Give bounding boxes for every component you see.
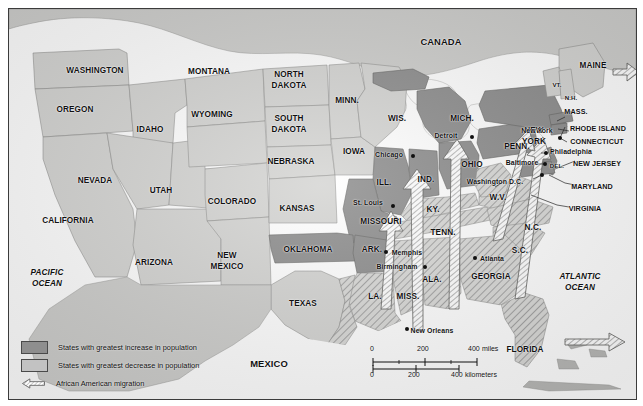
scale-miles-tick-400: 400 <box>468 345 480 352</box>
state-label-michigan: MICH. <box>450 115 474 123</box>
state-label-rhode-island: RHODE ISLAND <box>570 125 626 132</box>
state-label-new-york-line2: YORK <box>522 138 546 146</box>
scale-km-tick-0: 0 <box>370 371 374 378</box>
ocean-label-pacific-line2: OCEAN <box>32 280 62 288</box>
ocean-label-pacific-line1: PACIFIC <box>31 269 64 277</box>
state-label-kentucky: KY. <box>426 206 439 214</box>
legend-item-increase: States with greatest increase in populat… <box>21 339 199 355</box>
state-label-new-jersey: NEW JERSEY <box>573 160 621 167</box>
state-label-vermont: VT. <box>552 82 561 88</box>
ocean-label-atlantic-line1: ATLANTIC <box>559 273 600 281</box>
state-label-tennessee: TENN. <box>430 229 455 237</box>
state-label-north-carolina: N.C. <box>525 224 542 232</box>
city-label-baltimore: Baltimore <box>506 159 539 166</box>
state-label-south-dakota-line2: DAKOTA <box>271 126 306 134</box>
state-label-georgia: GEORGIA <box>471 273 510 281</box>
state-label-missouri: MISSOURI <box>360 218 401 226</box>
state-label-kansas: KANSAS <box>279 205 314 213</box>
scale-miles-tick-200: 200 <box>417 345 429 352</box>
legend-item-migration: African American migration <box>21 375 199 391</box>
state-label-maryland: MARYLAND <box>571 183 613 190</box>
state-label-indiana: IND. <box>418 176 435 184</box>
city-dot-washington-dc <box>540 173 544 177</box>
state-label-west-virginia: W.V. <box>490 194 507 202</box>
state-label-connecticut: CONNECTICUT <box>570 138 623 145</box>
city-dot-new-york <box>558 136 562 140</box>
legend-label-migration: African American migration <box>56 379 144 388</box>
state-label-mississippi: MISS. <box>397 293 420 301</box>
state-label-virginia: VIRGINIA <box>569 205 602 212</box>
state-label-wyoming: WYOMING <box>191 111 233 119</box>
city-label-washington-dc: Washington D.C. <box>467 178 523 185</box>
state-label-new-mexico-line1: NEW <box>217 252 236 260</box>
ocean-label-atlantic-line2: OCEAN <box>565 284 595 292</box>
country-label-mexico: MEXICO <box>250 359 288 369</box>
state-label-south-dakota-line1: SOUTH <box>274 115 303 123</box>
decrease-swatch <box>21 359 48 372</box>
state-label-alabama: ALA. <box>422 276 442 284</box>
city-dot-philadelphia <box>544 151 548 155</box>
state-label-arkansas: ARK. <box>362 246 382 254</box>
scale-miles-unit: miles <box>482 345 498 352</box>
map-legend: States with greatest increase in populat… <box>21 339 199 393</box>
legend-label-increase: States with greatest increase in populat… <box>58 343 197 352</box>
legend-label-decrease: States with greatest decrease in populat… <box>58 361 199 370</box>
city-label-birmingham: Birmingham <box>376 263 417 270</box>
state-label-arizona: ARIZONA <box>135 259 173 267</box>
legend-item-decrease: States with greatest decrease in populat… <box>21 357 199 373</box>
state-label-utah: UTAH <box>150 187 173 195</box>
state-label-iowa: IOWA <box>343 148 365 156</box>
city-dot-chicago <box>411 154 415 158</box>
state-label-massachusetts: MASS. <box>564 108 587 115</box>
city-label-new-orleans: New Orleans <box>411 327 454 334</box>
state-label-oregon: OREGON <box>57 106 94 114</box>
state-label-florida: FLORIDA <box>506 346 543 354</box>
city-label-philadelphia: Philadelphia <box>550 148 592 155</box>
state-label-washington: WASHINGTON <box>66 67 123 75</box>
scale-bar: 0 200 400 miles 0 200 400 kilometers <box>369 349 509 383</box>
state-label-north-dakota-line2: DAKOTA <box>271 82 306 90</box>
state-label-nevada: NEVADA <box>78 177 113 185</box>
city-dot-baltimore <box>543 162 547 166</box>
city-label-atlanta: Atlanta <box>480 255 504 262</box>
migration-arrow-icon <box>21 378 46 389</box>
map-frame: CANADA MEXICO PACIFIC OCEAN ATLANTIC OCE… <box>8 8 637 400</box>
state-label-nebraska: NEBRASKA <box>267 158 314 166</box>
city-dot-birmingham <box>423 265 427 269</box>
city-label-detroit: Detroit <box>435 132 458 139</box>
state-label-oklahoma: OKLAHOMA <box>283 246 332 254</box>
state-label-idaho: IDAHO <box>137 126 164 134</box>
city-dot-detroit <box>470 135 474 139</box>
city-label-memphis: Memphis <box>392 249 423 256</box>
city-label-new-york: New York <box>521 127 553 134</box>
map-screenshot: CANADA MEXICO PACIFIC OCEAN ATLANTIC OCE… <box>0 0 643 406</box>
city-dot-st-louis <box>391 204 395 208</box>
state-label-montana: MONTANA <box>188 68 230 76</box>
state-label-illinois: ILL. <box>377 179 392 187</box>
state-label-minnesota: MINN. <box>335 97 359 105</box>
city-label-st-louis: St. Louis <box>353 199 383 206</box>
state-label-new-mexico-line2: MEXICO <box>211 263 244 271</box>
scale-miles-tick-0: 0 <box>370 345 374 352</box>
state-label-california: CALIFORNIA <box>42 217 93 225</box>
state-label-new-hampshire: N.H. <box>565 95 578 101</box>
city-dot-new-orleans <box>405 327 409 331</box>
increase-swatch <box>21 341 48 354</box>
scale-km-tick-200: 200 <box>408 371 420 378</box>
city-dot-atlanta <box>473 256 477 260</box>
state-label-texas: TEXAS <box>289 300 317 308</box>
scale-km-tick-400: 400 <box>451 371 463 378</box>
state-label-south-carolina: S.C. <box>512 247 528 255</box>
scale-km-unit: kilometers <box>465 371 497 378</box>
city-label-chicago: Chicago <box>375 151 403 158</box>
state-label-wisconsin: WIS. <box>388 115 406 123</box>
state-label-north-dakota-line1: NORTH <box>274 71 304 79</box>
country-label-canada: CANADA <box>420 37 461 47</box>
state-label-louisiana: LA. <box>368 293 382 301</box>
state-label-ohio: OHIO <box>461 161 482 169</box>
state-label-colorado: COLORADO <box>208 198 257 206</box>
state-label-delaware: DEL. <box>550 163 564 169</box>
city-dot-memphis <box>384 250 388 254</box>
state-label-maine: MAINE <box>580 62 607 70</box>
